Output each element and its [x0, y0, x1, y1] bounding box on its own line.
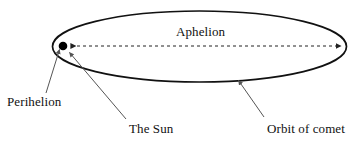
aphelion-label: Aphelion: [176, 25, 225, 38]
sun-leader-line: [70, 53, 127, 120]
orbit-of-comet-label: Orbit of comet: [267, 122, 345, 135]
perihelion-label: Perihelion: [7, 95, 61, 108]
sun-dot: [59, 42, 68, 51]
the-sun-label: The Sun: [129, 122, 173, 135]
perihelion-leader-line: [46, 50, 60, 94]
comet-orbit-diagram: Aphelion Perihelion The Sun Orbit of com…: [0, 0, 361, 145]
orbit-leader-line: [239, 81, 265, 118]
